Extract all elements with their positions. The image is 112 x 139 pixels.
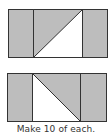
caption: Make 10 of each. [0, 124, 112, 134]
left-square [9, 10, 34, 58]
right-square [83, 10, 108, 58]
quilt-block-diagram [0, 0, 112, 139]
left-square [8, 74, 33, 122]
right-square [81, 74, 107, 122]
block-top [9, 10, 108, 58]
block-bottom [8, 74, 107, 122]
